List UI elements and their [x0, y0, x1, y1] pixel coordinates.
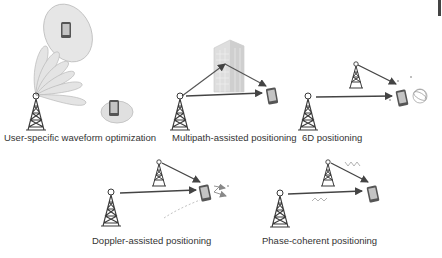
tower-icon — [101, 189, 121, 226]
panel-waveform — [26, 0, 133, 130]
panel-6d — [298, 62, 428, 130]
phone-icon — [266, 87, 279, 104]
rotation-icon — [412, 89, 427, 103]
motion-arrows — [214, 186, 226, 196]
phone-icon — [198, 184, 211, 202]
wave-icon — [312, 198, 327, 201]
tower-icon — [26, 93, 46, 130]
tower-icon — [298, 93, 318, 130]
panel-label-multipath: Multipath-assisted positioning — [172, 132, 297, 143]
phone-icon — [366, 185, 379, 203]
panel-multipath — [170, 40, 278, 130]
tower-icon — [170, 93, 190, 130]
panel-label-doppler: Doppler-assisted positioning — [92, 235, 211, 246]
panel-phase — [270, 160, 380, 227]
phone-icon — [109, 100, 119, 116]
trajectory-path — [164, 200, 200, 218]
panel-label-phase: Phase-coherent positioning — [262, 235, 377, 246]
wave-icon — [345, 162, 360, 166]
panel-label-waveform: User-specific waveform optimization — [4, 132, 156, 143]
positioning-diagram — [0, 0, 442, 258]
panel-label-6d: 6D positioning — [302, 132, 362, 143]
panel-doppler — [101, 160, 229, 226]
phone-icon — [61, 22, 71, 38]
phone-icon — [395, 89, 408, 107]
tower-icon — [270, 190, 290, 227]
